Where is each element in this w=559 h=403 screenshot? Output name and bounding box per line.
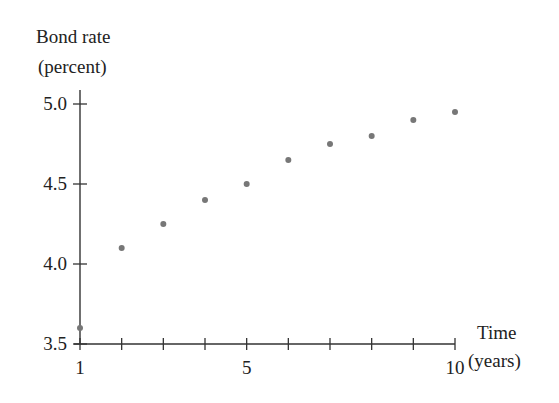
data-point	[410, 117, 416, 123]
data-point	[160, 221, 166, 227]
x-tick-label: 5	[242, 357, 252, 378]
x-tick-label: 10	[446, 357, 465, 378]
x-tick-label: 1	[75, 357, 85, 378]
data-point	[244, 181, 250, 187]
data-point	[202, 197, 208, 203]
y-tick-label: 3.5	[43, 333, 67, 354]
y-tick-label: 4.5	[43, 173, 67, 194]
data-point	[285, 157, 291, 163]
data-point	[452, 109, 458, 115]
y-tick-label: 5.0	[43, 93, 67, 114]
data-point	[119, 245, 125, 251]
data-point	[369, 133, 375, 139]
scatter-plot: 3.54.04.55.01510	[0, 0, 559, 403]
y-tick-label: 4.0	[43, 253, 67, 274]
data-point	[327, 141, 333, 147]
data-point	[77, 325, 83, 331]
